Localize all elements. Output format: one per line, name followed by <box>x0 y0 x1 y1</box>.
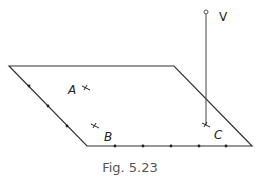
point-a-cross-mark <box>82 85 90 90</box>
diagram-figure: V ABC Fig. 5.23 <box>0 0 260 184</box>
edge-dot <box>142 145 145 148</box>
label-v: V <box>219 10 228 24</box>
point-b-cross-mark <box>91 123 99 128</box>
diagram-canvas: V ABC <box>0 0 260 184</box>
label-point-c: C <box>214 128 223 142</box>
vertical-line-top-circle <box>204 10 208 14</box>
label-point-b: B <box>104 130 112 144</box>
edge-dot <box>66 125 69 128</box>
edge-dot <box>170 145 173 148</box>
label-point-a: A <box>67 83 76 97</box>
edge-dot <box>198 145 201 148</box>
figure-caption: Fig. 5.23 <box>0 160 260 175</box>
edge-dot <box>28 85 31 88</box>
point-c-cross-mark <box>202 122 210 127</box>
edge-dot <box>47 105 50 108</box>
edge-dot <box>225 145 228 148</box>
edge-dot <box>114 145 117 148</box>
